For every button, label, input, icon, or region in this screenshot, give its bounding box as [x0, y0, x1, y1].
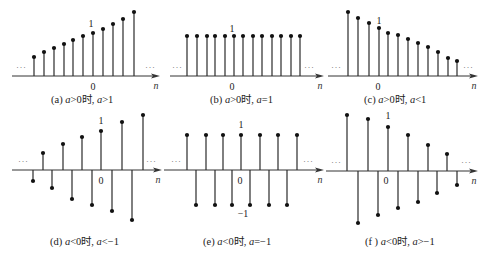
stem: [185, 133, 189, 170]
stem: [130, 170, 134, 222]
stem-dot: [213, 34, 217, 38]
value-one-label: 1: [386, 110, 391, 121]
stem-dot: [289, 34, 293, 38]
stem-dot: [377, 26, 381, 30]
stem-dot: [446, 56, 450, 60]
stem: [367, 21, 371, 76]
stem-dot: [141, 113, 145, 117]
stem-dot: [62, 42, 66, 46]
stem-dot: [205, 34, 209, 38]
stem: [396, 33, 400, 76]
stem: [111, 22, 115, 76]
stem: [455, 59, 459, 76]
panel-caption-f: (f ) a<0时, a>−1: [365, 233, 435, 248]
stem-dot: [396, 206, 400, 210]
stem: [31, 170, 35, 183]
stem: [298, 34, 302, 76]
stem: [455, 171, 459, 187]
stem-dot: [50, 186, 54, 190]
stem: [426, 143, 430, 171]
ellipsis-left: ···: [171, 156, 182, 166]
stem-dot: [298, 34, 302, 38]
stem-dot: [406, 133, 410, 137]
stem-dot: [267, 203, 271, 207]
stem: [276, 133, 280, 170]
stem-dot: [195, 34, 199, 38]
stem: [194, 170, 198, 207]
stem-dot: [61, 142, 65, 146]
stem: [213, 34, 217, 76]
stem: [426, 45, 430, 76]
stem: [41, 151, 45, 170]
stem: [295, 133, 299, 170]
stem-dot: [52, 46, 56, 50]
stem-dot: [435, 191, 439, 195]
stem: [258, 133, 262, 170]
panel-b: 10n······: [170, 23, 324, 92]
stem: [42, 50, 46, 76]
stem-dot: [416, 200, 420, 204]
origin-zero-label: 0: [99, 175, 104, 186]
stem: [232, 34, 236, 76]
stem: [285, 170, 289, 207]
stem-dot: [31, 179, 35, 183]
stem: [279, 34, 283, 76]
panel-a: 10n······: [12, 10, 160, 92]
stem: [120, 120, 124, 170]
stem: [346, 10, 350, 76]
value-one-label: 1: [89, 18, 94, 29]
stem-dot: [426, 143, 430, 147]
stem-dot: [426, 45, 430, 49]
stem: [270, 34, 274, 76]
value-one-label: 1: [239, 119, 244, 130]
stem-dot: [130, 218, 134, 222]
stem: [195, 34, 199, 76]
stem: [121, 17, 125, 76]
stem: [185, 34, 189, 76]
n-axis-label: n: [318, 80, 323, 91]
stem: [267, 170, 271, 207]
stem: [251, 34, 255, 76]
stem: [205, 34, 209, 76]
stem: [71, 38, 75, 76]
stem-dot: [204, 133, 208, 137]
stem-dot: [248, 203, 252, 207]
stem: [376, 171, 380, 217]
stem: [80, 135, 84, 170]
value-one-label: 1: [377, 15, 382, 26]
stem-dot: [386, 31, 390, 35]
stem: [366, 117, 370, 171]
stem-dot: [436, 50, 440, 54]
ellipsis-left: ···: [18, 156, 29, 166]
stem-dot: [356, 221, 360, 225]
stem-dot: [258, 133, 262, 137]
stem-dot: [241, 34, 245, 38]
stem: [345, 113, 349, 171]
stem: [386, 125, 390, 171]
stem-dot: [386, 125, 390, 129]
stem-dot: [345, 113, 349, 117]
n-axis-label: n: [156, 174, 161, 185]
stem-dot: [416, 41, 420, 45]
stem: [248, 170, 252, 207]
stem-dot: [81, 34, 85, 38]
stem-dot: [270, 34, 274, 38]
stem: [101, 27, 105, 76]
stem: [90, 170, 94, 207]
ellipsis-right: ···: [146, 156, 157, 166]
panel-caption-e: (e) a<0时, a=−1: [203, 233, 271, 248]
origin-zero-label: 0: [238, 175, 243, 186]
stem: [445, 152, 449, 171]
stem: [52, 46, 56, 76]
value-one-label: 1: [99, 115, 104, 126]
stem: [446, 56, 450, 76]
stem-dot: [90, 203, 94, 207]
ellipsis-right: ···: [463, 62, 474, 72]
n-axis-label: n: [154, 80, 159, 91]
ellipsis-right: ···: [304, 62, 315, 72]
ellipsis-right: ···: [145, 62, 156, 72]
stem-dot: [276, 133, 280, 137]
stem: [91, 31, 95, 76]
stem: [221, 133, 225, 170]
stem: [377, 26, 381, 76]
